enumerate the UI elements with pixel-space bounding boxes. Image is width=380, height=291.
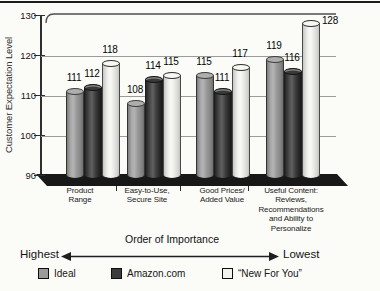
bar-value-label-new-for-you-2: 117 <box>227 49 253 59</box>
legend-item-amazon: Amazon.com <box>111 266 185 280</box>
bar-top-ellipse-new-for-you-2 <box>232 64 250 71</box>
legend-label-amazon: Amazon.com <box>127 268 185 279</box>
bar-value-label-new-for-you-0: 118 <box>97 45 123 55</box>
bar-top-ellipse-ideal-1 <box>127 100 145 107</box>
bar-ideal-1 <box>127 104 145 178</box>
legend-item-new-for-you: “New For You” <box>222 266 302 280</box>
bar-new-for-you-0 <box>102 64 120 178</box>
bar-value-label-amazon-2: 111 <box>209 73 235 83</box>
bar-top-ellipse-new-for-you-3 <box>302 20 320 27</box>
legend-swatch-new-for-you <box>222 268 233 279</box>
legend-label-ideal: Ideal <box>54 268 76 279</box>
bar-value-label-new-for-you-3: 128 <box>322 16 346 26</box>
legend-swatch-ideal <box>38 268 49 279</box>
arrow-right-head-icon <box>269 252 279 261</box>
bar-top-ellipse-new-for-you-1 <box>163 72 181 79</box>
importance-arrow <box>0 0 380 291</box>
bar-top-ellipse-ideal-0 <box>66 88 84 95</box>
bar-new-for-you-3 <box>302 24 320 178</box>
bar-amazon-3 <box>284 72 302 178</box>
bar-ideal-3 <box>266 60 284 178</box>
bar-ideal-0 <box>66 92 84 178</box>
bar-value-label-ideal-3: 119 <box>261 41 287 51</box>
bar-value-label-ideal-2: 115 <box>191 57 217 67</box>
bar-top-ellipse-new-for-you-0 <box>102 60 120 67</box>
bar-new-for-you-2 <box>232 68 250 178</box>
bar-value-label-amazon-3: 116 <box>279 53 305 63</box>
bar-amazon-2 <box>214 92 232 178</box>
arrow-left-head-icon <box>61 252 71 261</box>
bar-value-label-new-for-you-1: 115 <box>158 57 184 67</box>
bar-amazon-0 <box>84 88 102 178</box>
legend-swatch-amazon <box>111 268 122 279</box>
bar-top-ellipse-amazon-0 <box>84 84 102 91</box>
bar-new-for-you-1 <box>163 76 181 178</box>
legend-label-new-for-you: “New For You” <box>238 268 302 279</box>
bar-top-ellipse-amazon-3 <box>284 68 302 75</box>
bar-chart-figure: Customer Expectation Level 1301201101009… <box>0 0 380 291</box>
bar-value-label-ideal-1: 108 <box>122 85 148 95</box>
bar-ideal-2 <box>196 76 214 178</box>
legend-item-ideal: Ideal <box>38 266 76 280</box>
bar-value-label-amazon-0: 112 <box>79 69 105 79</box>
bar-top-ellipse-amazon-2 <box>214 88 232 95</box>
bar-top-ellipse-amazon-1 <box>145 76 163 83</box>
